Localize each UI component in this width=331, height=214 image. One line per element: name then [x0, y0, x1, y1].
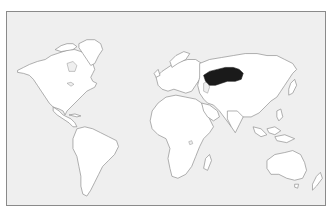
caribbean-islands: [69, 114, 81, 117]
tasmania: [295, 184, 299, 188]
new-zealand: [312, 172, 322, 190]
europe: [156, 60, 202, 94]
north-america: [18, 50, 97, 115]
south-america: [73, 127, 119, 196]
lake-victoria: [189, 141, 193, 145]
british-isles: [154, 69, 160, 77]
philippines: [277, 109, 283, 121]
madagascar: [204, 155, 212, 171]
southeast-asia-islands: [253, 127, 295, 143]
japan: [289, 79, 297, 95]
australia: [267, 151, 307, 181]
indian-subcontinent: [227, 111, 243, 133]
map-frame: Kazakhstan: [6, 11, 326, 206]
world-map: [7, 12, 325, 205]
